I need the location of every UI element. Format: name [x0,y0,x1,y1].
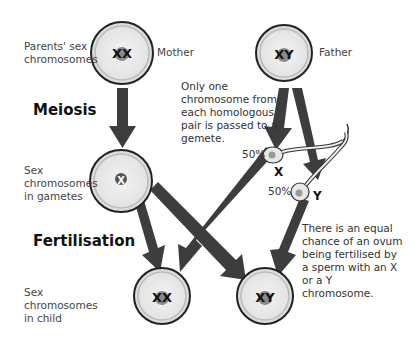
father-label: Father [319,46,352,59]
sperm-x-percent: 50% [242,148,265,160]
sperm-x-label: X [274,165,283,179]
mother-label: Mother [157,46,194,59]
arrow-ovum-to-child-xx [134,197,165,272]
label-gametes-row: Sex chromosomes in gametes [24,164,104,203]
ovum-chromosome: X [117,175,125,186]
meiosis-heading: Meiosis [33,101,97,119]
sperm-y-label: Y [313,189,322,203]
sperm-y-percent: 50% [268,185,291,197]
child-female-chromosomes: XX [152,290,172,305]
arrow-mother-to-ovum [109,88,136,148]
mother-chromosomes: XX [112,46,132,61]
fertilisation-heading: Fertilisation [33,232,135,250]
father-chromosomes: XY [274,47,294,62]
fertilisation-note: There is an equal chance of an ovum bein… [302,222,406,300]
label-child-row: Sex chromosomes in child [24,286,104,325]
meiosis-note: Only one chromosome from each homologous… [181,80,287,145]
child-male-chromosomes: XY [255,290,275,305]
label-parents-row: Parents' sex chromosomes [24,40,104,66]
